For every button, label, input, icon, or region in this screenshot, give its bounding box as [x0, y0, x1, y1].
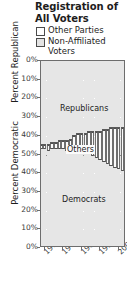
x-axis-tick-mark [99, 247, 100, 250]
y-axis-tick-label: 10% [12, 224, 38, 232]
y-axis-tick-label: 10% [12, 75, 38, 83]
x-axis-tick-mark [81, 247, 82, 250]
x-axis-tick-mark [118, 247, 119, 250]
legend-label-non-affiliated-line1: Non-Affiliated [48, 36, 106, 46]
chart-figure: Registration of All Voters Other Parties… [0, 0, 127, 283]
x-axis-tick-mark [62, 247, 63, 250]
y-axis-tick-label: 50% [12, 150, 38, 158]
band-label-republicans: Republicans [60, 104, 108, 113]
page-title: Registration of All Voters [35, 1, 125, 24]
chart-legend: Other Parties Non-Affiliated Voters [36, 26, 127, 57]
y-axis-title-democratic: Percent Democratic [10, 115, 20, 211]
legend-item-other-parties: Other Parties [36, 26, 127, 36]
y-axis-tick-label: 30% [12, 112, 38, 120]
legend-swatch-other-parties-icon [36, 27, 45, 36]
legend-label-non-affiliated: Non-Affiliated Voters [48, 37, 106, 56]
y-axis-tick-label: 20% [12, 206, 38, 214]
bar-segment-democrats [124, 173, 125, 247]
y-axis-tick-label: 30% [12, 187, 38, 195]
y-axis-tick-label: 0% [12, 243, 38, 251]
bar-segment-others [124, 128, 125, 173]
legend-label-non-affiliated-line2: Voters [48, 47, 106, 57]
y-axis-tick-label: 20% [12, 93, 38, 101]
title-line-1: Registration of [35, 1, 118, 12]
y-axis-tick-label: 40% [12, 168, 38, 176]
y-axis-tick-label: 40% [12, 131, 38, 139]
title-line-2: All Voters [35, 13, 125, 25]
y-axis-tick-mark [37, 247, 40, 248]
x-axis-tick-mark [44, 247, 45, 250]
band-label-others: Others [66, 145, 95, 154]
band-label-democrats: Democrats [62, 195, 106, 204]
plot-area: Republicans Others Democrats [40, 60, 125, 247]
legend-swatch-non-affiliated-icon [36, 38, 45, 47]
legend-label-other-parties-line1: Other Parties [48, 25, 104, 35]
bar-segment-republicans [124, 61, 125, 128]
legend-item-non-affiliated: Non-Affiliated Voters [36, 37, 127, 56]
legend-label-other-parties: Other Parties [48, 26, 104, 36]
y-axis-tick-label: 0% [12, 56, 38, 64]
